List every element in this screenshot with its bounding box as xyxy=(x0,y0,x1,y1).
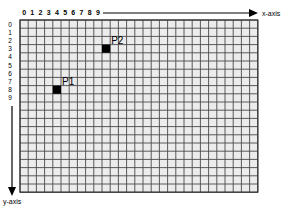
point-marker-p1 xyxy=(53,86,61,94)
y-tick-label: 8 xyxy=(8,86,12,93)
y-tick-label: 9 xyxy=(8,94,12,101)
x-axis-arrow xyxy=(103,9,258,17)
grid xyxy=(20,20,258,192)
x-tick-label: 5 xyxy=(63,9,67,16)
y-tick-label: 4 xyxy=(8,53,12,60)
x-axis-label: x-axis xyxy=(262,10,281,17)
x-tick-label: 9 xyxy=(96,9,100,16)
y-tick-label: 6 xyxy=(8,70,12,77)
y-axis-label: y-axis xyxy=(3,198,22,206)
x-tick-label: 0 xyxy=(22,9,26,16)
grid-canvas: 0123456789 0123456789 x-axis y-axis P1P2 xyxy=(0,0,284,208)
x-tick-label: 3 xyxy=(47,9,51,16)
grid-background xyxy=(20,20,258,192)
x-tick-label: 7 xyxy=(80,9,84,16)
x-tick-label: 8 xyxy=(88,9,92,16)
point-label-p1: P1 xyxy=(62,76,75,87)
y-axis-arrow xyxy=(8,106,16,196)
coordinate-grid-diagram: 0123456789 0123456789 x-axis y-axis P1P2 xyxy=(0,0,284,208)
x-tick-label: 6 xyxy=(71,9,75,16)
x-tick-label: 1 xyxy=(30,9,34,16)
x-tick-label: 2 xyxy=(39,9,43,16)
x-tick-label: 4 xyxy=(55,9,59,16)
point-marker-p2 xyxy=(102,45,110,53)
y-tick-label: 1 xyxy=(8,29,12,36)
point-label-p2: P2 xyxy=(111,35,124,46)
y-axis-tick-labels: 0123456789 xyxy=(8,21,12,102)
y-tick-label: 0 xyxy=(8,21,12,28)
y-tick-label: 7 xyxy=(8,78,12,85)
y-tick-label: 5 xyxy=(8,62,12,69)
x-axis-tick-labels: 0123456789 xyxy=(22,9,100,16)
y-tick-label: 2 xyxy=(8,37,12,44)
y-tick-label: 3 xyxy=(8,45,12,52)
